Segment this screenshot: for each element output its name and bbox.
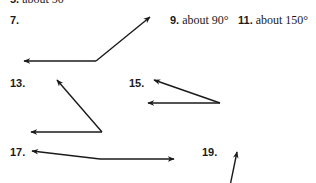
ray-arrow-icon — [96, 17, 150, 61]
angle-figures — [0, 0, 316, 183]
ray-arrow-icon — [57, 80, 102, 132]
ray-arrow-icon — [230, 152, 237, 183]
angle-figure-19 — [230, 152, 237, 183]
ray-arrow-icon — [154, 80, 220, 103]
angle-figure-17 — [32, 151, 174, 159]
angle-figure-15 — [148, 80, 220, 103]
angle-figure-7 — [24, 17, 150, 61]
ray-arrow-icon — [32, 151, 100, 159]
angle-figure-13 — [31, 80, 102, 132]
